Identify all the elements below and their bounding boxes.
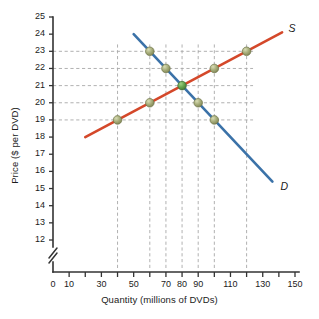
data-point-marker-supply bbox=[210, 64, 219, 73]
data-point-marker-demand bbox=[210, 116, 219, 125]
supply-demand-chart: 1213141516171819202122232425 01030507080… bbox=[0, 0, 319, 319]
data-point-marker-supply bbox=[242, 47, 251, 56]
x-axis-title: Quantity (millions of DVDs) bbox=[0, 294, 319, 305]
y-tick-label-25: 25 bbox=[23, 11, 45, 21]
equilibrium-marker bbox=[178, 81, 187, 90]
curve-label-demand: D bbox=[280, 180, 288, 192]
y-tick-label-15: 15 bbox=[23, 183, 45, 193]
horizontal-guide-lines bbox=[53, 51, 253, 120]
data-point-marker-demand bbox=[162, 64, 171, 73]
curve-lines bbox=[85, 32, 282, 181]
data-point-marker-supply bbox=[146, 98, 155, 107]
x-tick-label-110: 110 bbox=[218, 279, 242, 289]
y-tick-label-16: 16 bbox=[23, 165, 45, 175]
vertical-guide-lines bbox=[118, 44, 247, 268]
y-tick-label-23: 23 bbox=[23, 45, 45, 55]
plot-area bbox=[0, 0, 319, 319]
y-tick-label-12: 12 bbox=[23, 234, 45, 244]
y-axis-title: Price ($ per DVD) bbox=[9, 86, 20, 206]
x-tick-label-30: 30 bbox=[89, 279, 113, 289]
x-tick-label-10: 10 bbox=[57, 279, 81, 289]
y-tick-label-22: 22 bbox=[23, 62, 45, 72]
data-point-marker-demand bbox=[194, 98, 203, 107]
x-tick-label-130: 130 bbox=[251, 279, 275, 289]
y-tick-label-21: 21 bbox=[23, 80, 45, 90]
curve-label-supply: S bbox=[289, 22, 296, 34]
curve-demand bbox=[134, 34, 273, 182]
y-tick-label-14: 14 bbox=[23, 200, 45, 210]
data-point-marker-supply bbox=[113, 116, 122, 125]
y-tick-label-24: 24 bbox=[23, 28, 45, 38]
data-point-marker-demand bbox=[146, 47, 155, 56]
y-tick-label-13: 13 bbox=[23, 217, 45, 227]
x-tick-label-50: 50 bbox=[122, 279, 146, 289]
y-tick-label-18: 18 bbox=[23, 131, 45, 141]
y-axis-break-icon bbox=[49, 248, 57, 263]
x-tick-label-150: 150 bbox=[283, 279, 307, 289]
axis-lines bbox=[53, 17, 299, 272]
y-tick-label-17: 17 bbox=[23, 148, 45, 158]
y-tick-label-19: 19 bbox=[23, 114, 45, 124]
y-tick-label-20: 20 bbox=[23, 97, 45, 107]
x-tick-label-90: 90 bbox=[186, 279, 210, 289]
